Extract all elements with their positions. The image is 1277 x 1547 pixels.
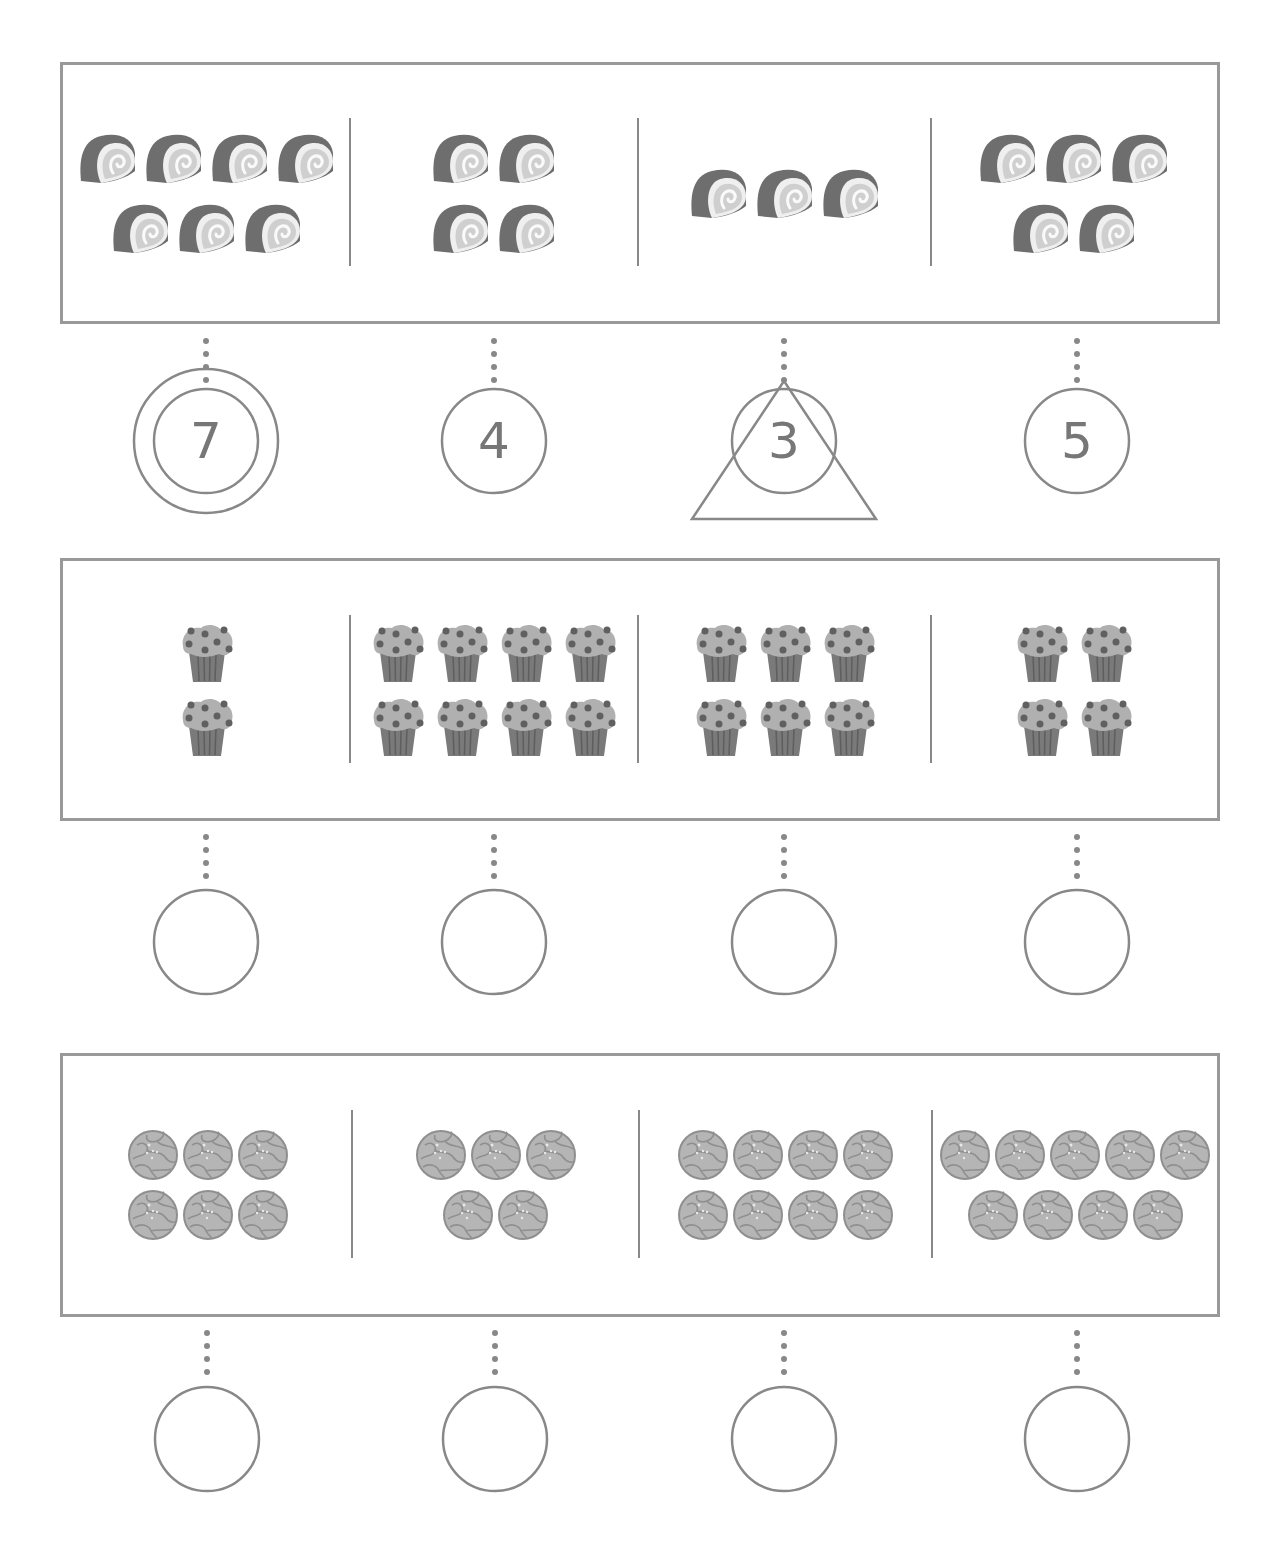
- muffin-icon: [1014, 622, 1070, 684]
- item-group: [352, 70, 636, 318]
- item-row: [442, 1189, 549, 1241]
- answer-circle[interactable]: [730, 888, 838, 996]
- dotted-connector: [491, 834, 497, 879]
- answer-number: 4: [478, 412, 510, 470]
- cookie-icon: [1022, 1189, 1074, 1241]
- muffin-icon: [757, 622, 813, 684]
- cookie-icon: [939, 1129, 991, 1181]
- answer-circle[interactable]: [730, 1385, 838, 1493]
- cookie-icon: [732, 1189, 784, 1241]
- answer-circle[interactable]: [1023, 1385, 1131, 1493]
- muffin-icon: [821, 696, 877, 758]
- item-row: [677, 1129, 894, 1181]
- dotted-connector: [781, 338, 787, 383]
- dotted-connector: [1074, 338, 1080, 383]
- item-group: [640, 70, 929, 318]
- item-group: [66, 566, 348, 814]
- divider: [930, 118, 932, 266]
- answer-circle-outline: [730, 888, 838, 996]
- answer-circle[interactable]: [441, 1385, 549, 1493]
- muffin-icon: [1078, 622, 1134, 684]
- item-row: [179, 696, 235, 758]
- answer-circle[interactable]: [153, 1385, 261, 1493]
- muffin-icon: [370, 622, 426, 684]
- dotted-connector: [204, 1330, 210, 1375]
- divider: [349, 118, 351, 266]
- item-group: [352, 566, 636, 814]
- item-row: [693, 696, 877, 758]
- muffin-icon: [562, 622, 618, 684]
- cookie-icon: [182, 1129, 234, 1181]
- answer-circle[interactable]: [440, 888, 548, 996]
- item-row: [110, 201, 304, 257]
- swiss-roll-icon: [110, 201, 172, 257]
- swiss-roll-icon: [275, 131, 337, 187]
- item-row: [939, 1129, 1211, 1181]
- answer-circle[interactable]: [152, 888, 260, 996]
- item-group: [640, 566, 929, 814]
- muffin-icon: [434, 696, 490, 758]
- item-group: [66, 70, 348, 318]
- cookie-icon: [415, 1129, 467, 1181]
- muffin-icon: [498, 622, 554, 684]
- item-row: [1014, 696, 1134, 758]
- swiss-roll-icon: [77, 131, 139, 187]
- answer-circle-outline: [441, 1385, 549, 1493]
- muffin-icon: [562, 696, 618, 758]
- divider: [351, 1110, 353, 1258]
- cookie-icon: [525, 1129, 577, 1181]
- muffin-icon: [821, 622, 877, 684]
- item-group: [354, 1061, 637, 1309]
- swiss-roll-icon: [977, 131, 1039, 187]
- item-group: [934, 1061, 1216, 1309]
- item-group: [933, 70, 1215, 318]
- cookie-icon: [442, 1189, 494, 1241]
- dotted-connector: [781, 834, 787, 879]
- cookie-icon: [237, 1189, 289, 1241]
- answer-circle-outline: [152, 888, 260, 996]
- muffin-icon: [370, 696, 426, 758]
- item-row: [688, 166, 882, 222]
- cookie-icon: [1132, 1189, 1184, 1241]
- cookie-icon: [127, 1189, 179, 1241]
- muffin-icon: [1014, 696, 1070, 758]
- cookie-icon: [842, 1189, 894, 1241]
- muffin-icon: [693, 696, 749, 758]
- cookie-icon: [1077, 1189, 1129, 1241]
- item-row: [370, 622, 618, 684]
- item-row: [967, 1189, 1184, 1241]
- item-row: [127, 1129, 289, 1181]
- answer-number: 7: [190, 412, 222, 470]
- swiss-roll-icon: [209, 131, 271, 187]
- answer-circle-outline: [1023, 1385, 1131, 1493]
- muffin-icon: [179, 696, 235, 758]
- item-group: [933, 566, 1215, 814]
- swiss-roll-icon: [1109, 131, 1171, 187]
- cookie-icon: [994, 1129, 1046, 1181]
- muffin-icon: [434, 622, 490, 684]
- answer-circle[interactable]: 4: [440, 387, 548, 495]
- item-row: [693, 622, 877, 684]
- answer-circle[interactable]: 3: [730, 387, 838, 495]
- cookie-icon: [842, 1129, 894, 1181]
- answer-circle[interactable]: 5: [1023, 387, 1131, 495]
- cookie-icon: [677, 1189, 729, 1241]
- cookie-icon: [1049, 1129, 1101, 1181]
- answer-circle[interactable]: 7: [152, 387, 260, 495]
- cookie-icon: [470, 1129, 522, 1181]
- dotted-connector: [491, 338, 497, 383]
- cookie-icon: [732, 1129, 784, 1181]
- item-row: [179, 622, 235, 684]
- answer-circle[interactable]: [1023, 888, 1131, 996]
- cookie-icon: [787, 1129, 839, 1181]
- swiss-roll-icon: [496, 131, 558, 187]
- answer-circle-outline: [730, 1385, 838, 1493]
- dotted-connector: [203, 338, 209, 383]
- divider: [638, 1110, 640, 1258]
- swiss-roll-icon: [754, 166, 816, 222]
- cookie-icon: [1159, 1129, 1211, 1181]
- divider: [931, 1110, 933, 1258]
- swiss-roll-icon: [688, 166, 750, 222]
- swiss-roll-icon: [143, 131, 205, 187]
- item-row: [415, 1129, 577, 1181]
